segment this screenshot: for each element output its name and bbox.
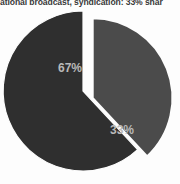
- pie-chart-svg: 67% 33%: [0, 6, 180, 184]
- pie-chart: 67% 33%: [0, 6, 180, 184]
- pie-slice-label-33: 33%: [110, 123, 134, 137]
- chart-canvas: ational broadcast, syndication: 33% shar…: [0, 0, 180, 184]
- pie-slice-label-67: 67%: [58, 61, 82, 75]
